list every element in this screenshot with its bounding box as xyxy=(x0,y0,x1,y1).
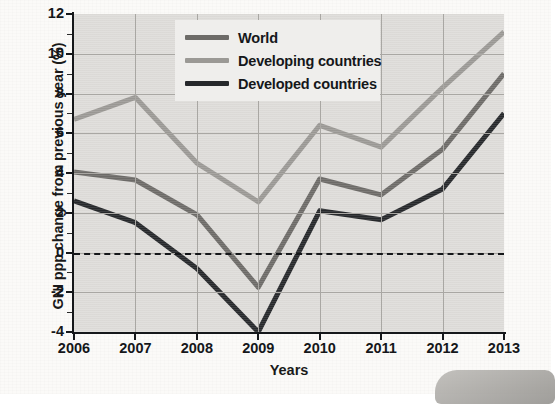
legend-swatch-developed xyxy=(185,81,229,86)
y-axis-tick-label: -2 xyxy=(28,283,64,299)
y-axis-minor-tick xyxy=(67,113,72,114)
y-axis-minor-tick xyxy=(67,153,72,154)
decorative-corner-shape xyxy=(435,370,555,404)
y-axis-spine xyxy=(72,12,74,334)
y-axis-tick-label: 6 xyxy=(28,124,64,140)
y-axis-tick-label: 10 xyxy=(28,45,64,61)
y-axis-minor-tick xyxy=(67,272,72,273)
legend-swatch-world xyxy=(185,35,229,40)
x-axis-title: Years xyxy=(74,362,504,378)
legend-label-developing: Developing countries xyxy=(238,53,381,69)
y-axis-tick-label: 4 xyxy=(28,164,64,180)
legend-label-world: World xyxy=(238,30,278,46)
legend-item: Developing countries xyxy=(185,49,372,72)
x-axis-tick-label: 2008 xyxy=(167,340,227,356)
y-axis-tick xyxy=(66,331,72,333)
y-axis-tick-label: 2 xyxy=(28,204,64,220)
x-axis-tick-label: 2013 xyxy=(474,340,534,356)
gridline-horizontal xyxy=(74,213,504,214)
y-axis-tick xyxy=(66,252,72,254)
series-line xyxy=(74,74,504,288)
y-axis-tick xyxy=(66,291,72,293)
chart-legend: World Developing countries Developed cou… xyxy=(175,20,380,101)
y-axis-minor-tick xyxy=(67,34,72,35)
x-axis-tick-label: 2009 xyxy=(228,340,288,356)
y-axis-minor-tick xyxy=(67,312,72,313)
y-axis-tick xyxy=(66,93,72,95)
y-axis-minor-tick xyxy=(67,193,72,194)
legend-item: Developed countries xyxy=(185,72,372,95)
legend-label-developed: Developed countries xyxy=(238,76,377,92)
y-axis-minor-tick xyxy=(67,233,72,234)
gridline-horizontal xyxy=(74,292,504,293)
x-axis-tick-label: 2011 xyxy=(351,340,411,356)
y-axis-tick-label: -4 xyxy=(28,323,64,339)
legend-swatch-developing xyxy=(185,58,229,63)
gridline-vertical xyxy=(135,14,136,332)
x-axis-tick-label: 2010 xyxy=(290,340,350,356)
gridline-vertical xyxy=(443,14,444,332)
legend-item: World xyxy=(185,26,372,49)
y-axis-tick-label: 8 xyxy=(28,85,64,101)
y-axis-tick xyxy=(66,212,72,214)
zero-reference-line xyxy=(74,253,504,255)
gridline-horizontal xyxy=(74,133,504,134)
y-axis-tick-label: 0 xyxy=(28,244,64,260)
y-axis-tick xyxy=(66,172,72,174)
gridline-horizontal xyxy=(74,173,504,174)
y-axis-tick xyxy=(66,13,72,15)
x-axis-tick-label: 2007 xyxy=(105,340,165,356)
y-axis-minor-tick xyxy=(67,74,72,75)
y-axis-tick-label: 12 xyxy=(28,5,64,21)
x-axis-tick-label: 2012 xyxy=(413,340,473,356)
y-axis-tick xyxy=(66,132,72,134)
y-axis-tick xyxy=(66,53,72,55)
series-line xyxy=(74,113,504,332)
x-axis-tick-label: 2006 xyxy=(44,340,104,356)
